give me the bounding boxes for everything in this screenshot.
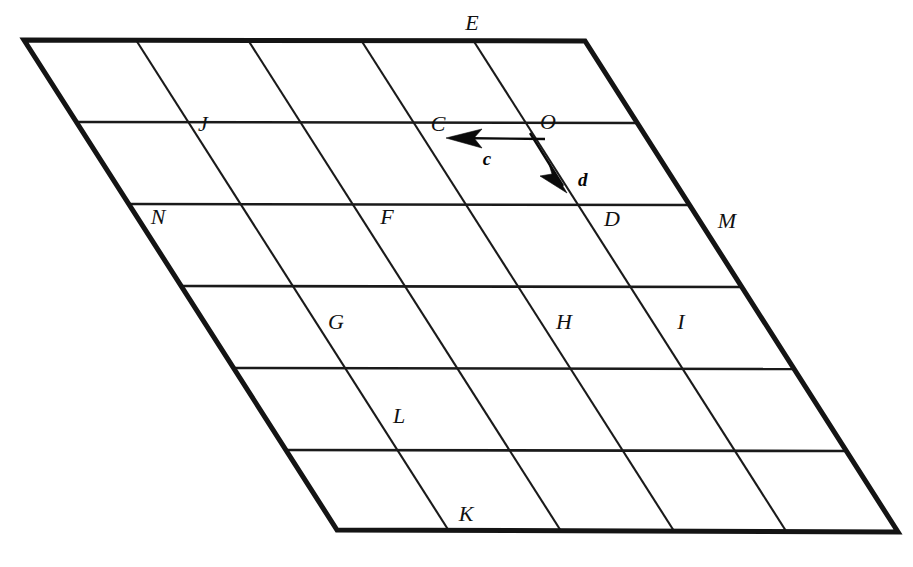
point-label-N: N bbox=[150, 204, 167, 229]
gridline-h-4 bbox=[233, 368, 794, 369]
paper-background bbox=[0, 0, 913, 567]
point-label-H: H bbox=[555, 309, 573, 334]
vector-d-label: d bbox=[578, 169, 588, 190]
point-label-K: K bbox=[458, 501, 475, 526]
diagram-canvas: c d E J C O N F D M G H I L K bbox=[0, 0, 913, 567]
point-label-M: M bbox=[717, 208, 738, 233]
vector-c-label: c bbox=[483, 148, 492, 169]
gridline-h-3 bbox=[180, 286, 741, 287]
gridline-h-5 bbox=[285, 450, 846, 451]
point-label-G: G bbox=[328, 309, 344, 334]
point-label-J: J bbox=[198, 111, 209, 136]
point-label-L: L bbox=[392, 403, 405, 428]
parallelogram-lattice-figure: c d E J C O N F D M G H I L K bbox=[0, 0, 913, 567]
point-label-O: O bbox=[540, 109, 556, 134]
point-label-E: E bbox=[464, 10, 479, 35]
point-label-C: C bbox=[431, 111, 446, 136]
point-label-F: F bbox=[379, 204, 394, 229]
gridline-h-2 bbox=[128, 204, 689, 205]
point-label-D: D bbox=[603, 206, 620, 231]
